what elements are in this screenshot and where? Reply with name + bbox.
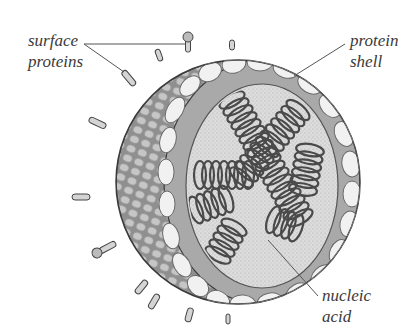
label-line: shell xyxy=(350,51,398,72)
protein-shell-line xyxy=(294,44,345,76)
label-line: surface xyxy=(28,30,83,51)
label-line: nucleic xyxy=(322,285,371,306)
surface-proteins-line-bottom xyxy=(84,44,124,72)
label-line: protein xyxy=(350,30,398,51)
label-line: proteins xyxy=(28,51,83,72)
label-nucleic-acid: nucleic acid xyxy=(322,285,371,327)
label-surface-proteins: surface proteins xyxy=(28,30,83,72)
label-line: acid xyxy=(322,306,371,327)
label-protein-shell: protein shell xyxy=(350,30,398,72)
